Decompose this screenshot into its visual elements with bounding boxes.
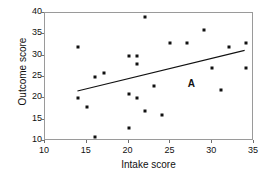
- x-axis-title: Intake score: [44, 159, 253, 170]
- x-axis-ticks: 101520253035: [0, 0, 267, 183]
- x-tick-mark: [211, 140, 212, 143]
- x-tick-label: 35: [241, 146, 265, 155]
- x-tick-label: 20: [116, 146, 140, 155]
- x-tick-mark: [253, 140, 254, 143]
- x-tick-label: 15: [74, 146, 98, 155]
- x-tick-label: 25: [157, 146, 181, 155]
- x-tick-mark: [128, 140, 129, 143]
- x-tick-label: 10: [32, 146, 56, 155]
- y-axis-title: Outcome score: [17, 12, 28, 132]
- scatter-plot-figure: A 10152025303540 101520253035 Intake sco…: [0, 0, 267, 183]
- x-tick-mark: [44, 140, 45, 143]
- x-tick-mark: [169, 140, 170, 143]
- x-tick-label: 30: [199, 146, 223, 155]
- x-tick-mark: [86, 140, 87, 143]
